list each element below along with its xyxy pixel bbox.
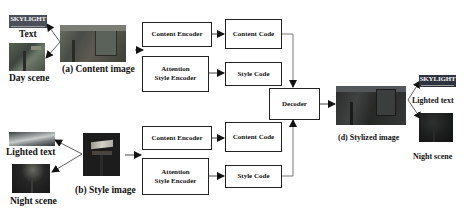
day-scene-label: Day scene (9, 73, 49, 83)
bottom-content-encoder: Content Encoder (142, 126, 212, 150)
night-scene-thumbnail (12, 164, 50, 193)
text-label: Text (19, 29, 37, 39)
arrow-bottom-style-code-to-decoder (282, 120, 293, 176)
arrow-content-to-day (46, 42, 60, 58)
arrow-style-to-night (52, 154, 82, 172)
lighted-text-thumbnail (9, 132, 55, 146)
bottom-attention-style-encoder: Attention Style Encoder (142, 158, 209, 195)
output-night-scene-label: Night scene (413, 152, 452, 161)
top-content-code: Content Code (225, 19, 282, 49)
output-lighted-text-thumbnail: SKYLIGHT (419, 75, 456, 87)
day-scene-thumbnail (9, 43, 45, 71)
bottom-style-code: Style Code (225, 165, 282, 188)
bottom-style-encoder-line2: Style Encoder (155, 177, 197, 186)
bottom-content-code-label: Content Code (233, 133, 274, 142)
content-image-caption: (a) Content image (62, 64, 135, 74)
lighted-text-label: Lighted text (6, 147, 55, 157)
text-thumbnail-word: SKYLIGHT (10, 15, 46, 23)
stylized-image (336, 86, 406, 125)
decoder: Decoder (269, 88, 320, 120)
output-night-scene-thumbnail (419, 113, 453, 142)
bottom-content-encoder-label: Content Encoder (151, 134, 202, 143)
output-lighted-text-label: Lighted text (412, 96, 454, 105)
top-style-code: Style Code (225, 62, 282, 86)
bottom-content-code: Content Code (225, 122, 282, 152)
top-content-code-label: Content Code (233, 30, 274, 39)
bottom-style-encoder-line1: Attention (161, 168, 189, 177)
text-thumbnail: SKYLIGHT (9, 15, 47, 28)
decoder-label: Decoder (282, 100, 307, 109)
style-image-caption: (b) Style image (75, 185, 136, 195)
arrow-content-to-text (47, 24, 60, 42)
stylized-image-caption: (d) Stylized image (338, 133, 399, 142)
arrow-top-content-code-to-decoder (282, 34, 293, 87)
top-style-code-label: Style Code (237, 70, 269, 79)
top-content-encoder-label: Content Encoder (151, 30, 202, 39)
arrow-style-to-lighted (55, 140, 82, 154)
top-style-encoder-line1: Attention (161, 65, 189, 74)
top-attention-style-encoder: Attention Style Encoder (142, 56, 209, 92)
bottom-style-code-label: Style Code (237, 172, 269, 181)
top-style-encoder-line2: Style Encoder (155, 74, 197, 83)
top-content-encoder: Content Encoder (142, 22, 212, 47)
content-image (60, 25, 126, 62)
night-scene-label: Night scene (10, 196, 57, 206)
output-lighted-text-word: SKYLIGHT (420, 75, 456, 83)
style-image (83, 133, 120, 176)
